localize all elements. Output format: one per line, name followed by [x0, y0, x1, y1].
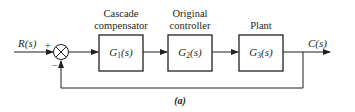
block-title-line2: Plant — [250, 20, 272, 31]
transfer-function-g3: G3(s) — [249, 46, 273, 60]
block-title-line1: Original — [173, 8, 208, 19]
block-title-line2: controller — [170, 20, 211, 31]
block-plant: Plant G3(s) — [239, 20, 283, 71]
input-label: R(s) — [17, 37, 37, 50]
transfer-function-g2: G2(s) — [178, 46, 202, 60]
block-title-line1: Cascade — [104, 8, 139, 19]
summing-junction — [54, 45, 69, 60]
minus-sign: − — [52, 60, 58, 71]
block-diagram: R(s) + − Cascade compensator G1(s) Origi… — [0, 0, 355, 112]
transfer-function-g1: G1(s) — [109, 46, 133, 60]
figure-caption: (a) — [174, 95, 186, 107]
block-original-controller: Original controller G2(s) — [168, 8, 212, 71]
output-label: C(s) — [308, 37, 327, 50]
plus-sign: + — [45, 40, 51, 51]
block-title-line2: compensator — [94, 20, 148, 31]
block-cascade-compensator: Cascade compensator G1(s) — [94, 8, 148, 71]
